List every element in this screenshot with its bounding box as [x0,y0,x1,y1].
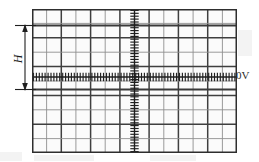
scan-artifact [238,30,252,56]
scan-artifact [150,155,196,161]
graticule [32,9,237,153]
scan-artifact [34,155,94,161]
scan-artifact [0,152,22,161]
graticule-svg [32,9,237,153]
oscilloscope-graticule-figure: H 0V [0,0,259,162]
height-label: H [9,52,27,66]
zero-volt-label: 0V [236,69,249,82]
